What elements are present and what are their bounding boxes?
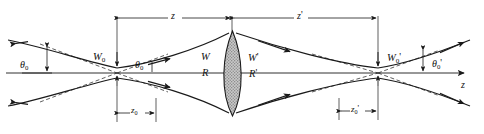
label-waist-input: W0: [93, 52, 105, 64]
label-theta0-prime: θ0': [432, 59, 442, 71]
label-lens-R-out: R': [249, 68, 257, 79]
label-theta0-inner: θ0: [135, 60, 143, 72]
label-dimension-z: z: [171, 11, 175, 21]
label-lens-W-out: W': [248, 52, 259, 63]
diagram-canvas: [0, 0, 484, 134]
label-lens-W-in: W: [201, 52, 210, 63]
gaussian-beam-diagram: θ0 θ0 θ0' W0 W0' W R W' R' z z' z0 z0' z: [0, 0, 484, 134]
extension-lines: [117, 16, 378, 122]
lens: [224, 31, 241, 116]
label-dimension-z0-prime: z0': [351, 104, 359, 115]
label-dimension-z0: z0: [131, 106, 138, 116]
label-waist-output: W0': [387, 52, 401, 65]
label-axis-z: z: [461, 80, 465, 90]
label-dimension-z-prime: z': [297, 11, 303, 21]
label-lens-R-in: R: [202, 68, 208, 79]
label-theta0-left: θ0: [20, 60, 28, 72]
